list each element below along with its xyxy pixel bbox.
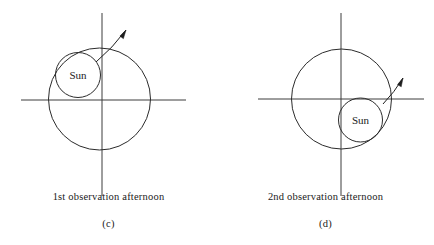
panel-c: Sun 1st observation afternoon (c) <box>0 0 217 245</box>
sun-label: Sun <box>352 114 370 126</box>
caption-observation-c: 1st observation afternoon <box>0 191 217 202</box>
orbit-circle <box>49 48 151 150</box>
panel-d: Sun 2nd observation afternoon (d) <box>217 0 434 245</box>
figure-root: Sun 1st observation afternoon (c) Sun 2n… <box>0 0 434 245</box>
diagram-c: Sun <box>0 0 217 245</box>
figure-label-c: (c) <box>0 218 217 229</box>
caption-observation-d: 2nd observation afternoon <box>217 191 434 202</box>
figure-label-d: (d) <box>217 218 434 229</box>
sun-label: Sun <box>69 69 87 81</box>
diagram-d: Sun <box>217 0 434 245</box>
